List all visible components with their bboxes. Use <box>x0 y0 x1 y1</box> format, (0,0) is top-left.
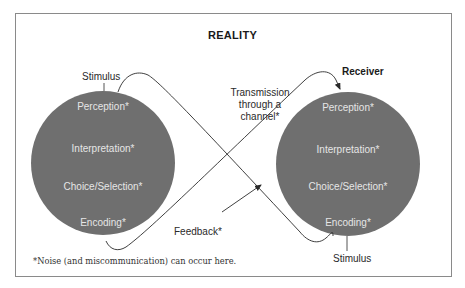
stimulus-label-left: Stimulus <box>82 71 120 82</box>
stimulus-label-right: Stimulus <box>333 253 371 264</box>
left-stage-encoding: Encoding* <box>33 217 173 228</box>
feedback-arrow <box>222 185 261 212</box>
right-stage-choice-selection: Choice/Selection* <box>278 181 418 192</box>
noise-footnote: *Noise (and miscommunication) can occur … <box>33 256 236 266</box>
feedback-label: Feedback* <box>174 226 222 237</box>
right-stage-interpretation: Interpretation* <box>278 144 418 155</box>
right-stage-encoding: Encoding* <box>278 217 418 228</box>
left-stage-choice-selection: Choice/Selection* <box>33 181 173 192</box>
transmission-line-1: Transmission <box>215 87 305 99</box>
reality-title: REALITY <box>0 29 465 41</box>
sender-circle <box>31 91 175 235</box>
left-stage-interpretation: Interpretation* <box>33 143 173 154</box>
left-stage-perception: Perception* <box>33 101 173 112</box>
receiver-label: Receiver <box>342 66 384 77</box>
right-stage-perception: Perception* <box>278 102 418 113</box>
